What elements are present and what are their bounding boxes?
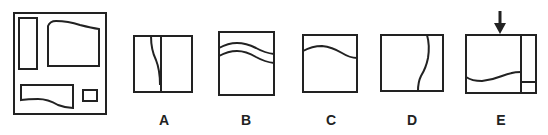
option-a-label: A: [149, 112, 179, 128]
option-e-figure[interactable]: [466, 35, 536, 93]
option-b-figure[interactable]: [219, 32, 274, 95]
option-e-label: E: [486, 112, 516, 128]
main-figure: [14, 13, 106, 114]
option-d-figure[interactable]: [381, 35, 443, 91]
option-c-figure[interactable]: [303, 35, 357, 92]
puzzle-diagram: [0, 0, 548, 135]
option-c-label: C: [316, 112, 346, 128]
option-a-figure[interactable]: [134, 36, 192, 92]
down-arrow-icon: [494, 11, 506, 34]
option-b-label: B: [231, 112, 261, 128]
option-d-label: D: [397, 112, 427, 128]
